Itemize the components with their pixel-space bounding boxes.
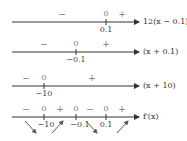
sign-zero: 0 (41, 74, 46, 82)
critical-point-label: −10 (36, 90, 53, 98)
critical-point-label: 0.1 (100, 26, 113, 34)
increasing-arrow-icon (117, 121, 128, 133)
sign-zero: 0 (103, 105, 108, 113)
function-label: (x + 10) (143, 82, 176, 90)
decreasing-arrow-icon (25, 121, 36, 133)
critical-point-label: −10 (38, 121, 55, 129)
critical-point-label: −0.1 (66, 56, 85, 64)
sign-zero: 0 (73, 105, 78, 113)
sign-positive: + (56, 105, 64, 114)
sign-zero: 0 (73, 40, 78, 48)
sign-negative: − (40, 40, 48, 49)
sign-negative: − (86, 105, 94, 114)
sign-zero: 0 (103, 10, 108, 18)
sign-negative: − (22, 74, 30, 83)
sign-negative: − (22, 105, 30, 114)
sign-positive: + (118, 105, 126, 114)
function-label: f′(x) (143, 113, 159, 121)
sign-positive: + (88, 74, 96, 83)
sign-positive: + (118, 10, 126, 19)
sign-zero: 0 (41, 105, 46, 113)
sign-positive: + (102, 40, 110, 49)
critical-point-label: 0.1 (100, 121, 113, 129)
function-label: 12(x − 0.1) (143, 18, 187, 26)
function-label: (x + 0.1) (143, 48, 178, 56)
sign-negative: − (58, 10, 66, 19)
critical-point-label: −0.1 (70, 121, 89, 129)
